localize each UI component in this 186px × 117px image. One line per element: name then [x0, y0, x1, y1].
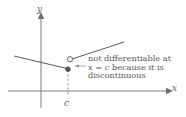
- filled-dot-marker: [65, 67, 70, 72]
- annotation-text-block: not differentiable at x = c because it i…: [88, 54, 186, 80]
- y-axis: [38, 12, 44, 108]
- x-axis-label: x: [172, 84, 177, 93]
- figure-container: y x c not differentiable at x = c becaus…: [0, 0, 186, 117]
- annotation-line-3: discontinuous: [88, 71, 186, 80]
- leader-arrowhead: [75, 64, 79, 67]
- annotation-leader-line: [75, 64, 86, 67]
- y-axis-label: y: [37, 5, 42, 14]
- open-circle-marker: [67, 57, 72, 62]
- x-tick-label-c: c: [64, 99, 69, 108]
- x-axis: [8, 88, 173, 94]
